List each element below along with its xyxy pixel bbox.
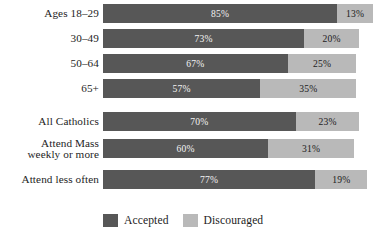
bar-segment-discouraged: 23% bbox=[296, 112, 359, 131]
chart-plot-area: Ages 18–2985%13%30–4973%20%50–6467%25%65… bbox=[0, 0, 383, 200]
bar-value-discouraged: 25% bbox=[313, 59, 331, 69]
bar-segment-discouraged: 31% bbox=[268, 139, 353, 158]
bar-track: 77%19% bbox=[103, 170, 367, 189]
legend-label-discouraged: Discouraged bbox=[204, 214, 264, 227]
bar-segment-discouraged: 13% bbox=[337, 4, 373, 23]
bar-row: Ages 18–2985%13% bbox=[0, 4, 383, 23]
bar-segment-accepted: 73% bbox=[103, 29, 304, 48]
bar-row: 30–4973%20% bbox=[0, 29, 383, 48]
row-category-label: 50–64 bbox=[0, 54, 99, 73]
bar-segment-discouraged: 19% bbox=[315, 170, 367, 189]
row-category-label: All Catholics bbox=[0, 112, 99, 131]
bar-segment-accepted: 70% bbox=[103, 112, 296, 131]
bar-value-accepted: 60% bbox=[177, 144, 195, 154]
bar-value-discouraged: 35% bbox=[299, 84, 317, 94]
bar-segment-discouraged: 35% bbox=[260, 79, 356, 98]
bar-row: 50–6467%25% bbox=[0, 54, 383, 73]
legend-label-accepted: Accepted bbox=[124, 214, 169, 227]
bar-segment-discouraged: 25% bbox=[288, 54, 357, 73]
bar-segment-accepted: 60% bbox=[103, 139, 268, 158]
bar-value-accepted: 70% bbox=[190, 117, 208, 127]
bar-row: All Catholics70%23% bbox=[0, 112, 383, 131]
bar-row: 65+57%35% bbox=[0, 79, 383, 98]
bar-segment-accepted: 57% bbox=[103, 79, 260, 98]
bar-value-discouraged: 20% bbox=[323, 34, 341, 44]
row-category-label-line: 30–49 bbox=[0, 29, 99, 48]
bar-value-accepted: 57% bbox=[172, 84, 190, 94]
bar-row: Attend less often77%19% bbox=[0, 170, 383, 189]
row-category-label-line: weekly or more bbox=[0, 149, 99, 160]
bar-value-discouraged: 23% bbox=[318, 117, 336, 127]
bar-value-accepted: 77% bbox=[200, 175, 218, 185]
bar-segment-accepted: 85% bbox=[103, 4, 337, 23]
bar-track: 70%23% bbox=[103, 112, 359, 131]
row-category-label: Attend less often bbox=[0, 170, 99, 189]
row-category-label: 30–49 bbox=[0, 29, 99, 48]
bar-value-accepted: 73% bbox=[194, 34, 212, 44]
bar-value-discouraged: 19% bbox=[332, 175, 350, 185]
row-category-label: Attend Massweekly or more bbox=[0, 138, 99, 159]
bar-track: 67%25% bbox=[103, 54, 356, 73]
chart-legend: Accepted Discouraged bbox=[103, 214, 263, 227]
row-category-label-line: Ages 18–29 bbox=[0, 4, 99, 23]
bar-track: 85%13% bbox=[103, 4, 373, 23]
bar-segment-accepted: 67% bbox=[103, 54, 288, 73]
legend-item-accepted: Accepted bbox=[103, 214, 169, 227]
bar-value-accepted: 85% bbox=[211, 9, 229, 19]
legend-item-discouraged: Discouraged bbox=[183, 214, 264, 227]
row-category-label-line: 65+ bbox=[0, 79, 99, 98]
bar-segment-accepted: 77% bbox=[103, 170, 315, 189]
legend-swatch-accepted-icon bbox=[103, 214, 118, 227]
bar-row: Attend Massweekly or more60%31% bbox=[0, 139, 383, 158]
bar-value-accepted: 67% bbox=[186, 59, 204, 69]
bar-track: 57%35% bbox=[103, 79, 356, 98]
row-category-label: 65+ bbox=[0, 79, 99, 98]
row-category-label-line: All Catholics bbox=[0, 112, 99, 131]
stacked-bar-chart: Ages 18–2985%13%30–4973%20%50–6467%25%65… bbox=[0, 0, 383, 238]
bar-track: 73%20% bbox=[103, 29, 359, 48]
row-category-label-line: 50–64 bbox=[0, 54, 99, 73]
bar-value-discouraged: 31% bbox=[302, 144, 320, 154]
bar-track: 60%31% bbox=[103, 139, 354, 158]
legend-swatch-discouraged-icon bbox=[183, 214, 198, 227]
row-category-label-line: Attend less often bbox=[0, 170, 99, 189]
bar-value-discouraged: 13% bbox=[346, 9, 364, 19]
bar-segment-discouraged: 20% bbox=[304, 29, 359, 48]
row-category-label-line: Attend Mass bbox=[0, 138, 99, 149]
row-category-label: Ages 18–29 bbox=[0, 4, 99, 23]
